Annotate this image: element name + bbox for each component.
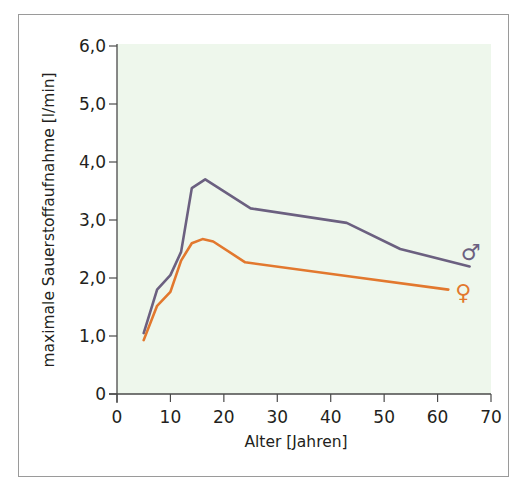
x-axis: 010203040506070: [109, 394, 502, 427]
x-tick-label: 10: [160, 407, 182, 427]
x-tick-label: 60: [427, 407, 449, 427]
y-axis-title: maximale Sauerstoffaufnahme [l/min]: [40, 72, 58, 367]
y-axis: 01,02,03,04,05,06,0: [79, 36, 117, 404]
y-tick-label: 2,0: [79, 268, 106, 288]
x-tick-label: 40: [320, 407, 342, 427]
y-tick-label: 3,0: [79, 210, 106, 230]
x-tick-label: 30: [266, 407, 288, 427]
plot-background: [117, 44, 491, 394]
x-tick-label: 0: [112, 407, 123, 427]
x-tick-label: 70: [480, 407, 502, 427]
y-tick-label: 5,0: [79, 94, 106, 114]
female-symbol-icon: ♀: [455, 280, 471, 305]
y-tick-label: 1,0: [79, 326, 106, 346]
x-tick-label: 50: [373, 407, 395, 427]
line-chart: 01,02,03,04,05,06,0 010203040506070 ♂♀ A…: [0, 0, 526, 489]
x-tick-label: 20: [213, 407, 235, 427]
male-symbol-icon: ♂: [461, 240, 481, 265]
y-tick-label: 6,0: [79, 36, 106, 56]
y-tick-label: 0: [95, 384, 106, 404]
y-tick-label: 4,0: [79, 152, 106, 172]
x-axis-title: Alter [Jahren]: [244, 433, 347, 451]
